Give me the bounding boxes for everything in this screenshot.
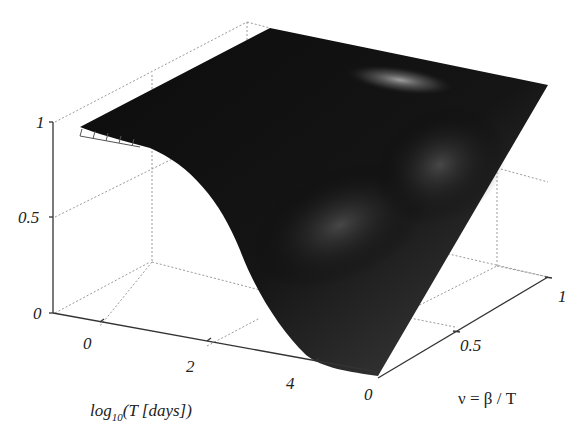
x-axis-label: log10(T [days]) [90, 401, 192, 423]
y-tick-0: 0 [364, 385, 373, 404]
z-tick-labels: 1 0.5 0 [18, 113, 45, 323]
y-tick-0-5: 0.5 [460, 336, 481, 355]
x-tick-labels: 0 2 4 [83, 334, 295, 393]
y-axis-label: ν = β / T [458, 389, 517, 408]
z-tick-0: 0 [33, 304, 42, 323]
x-tick-4: 4 [286, 374, 295, 393]
x-tick-2: 2 [186, 357, 195, 376]
x-tick-0: 0 [83, 334, 92, 353]
z-tick-0-5: 0.5 [18, 208, 39, 227]
z-tick-1: 1 [36, 113, 45, 132]
surface-plot: 1 0.5 0 0 2 4 0 0.5 1 log10(T [days]) ν … [0, 0, 585, 437]
y-tick-1: 1 [558, 287, 567, 306]
surface [80, 28, 548, 376]
